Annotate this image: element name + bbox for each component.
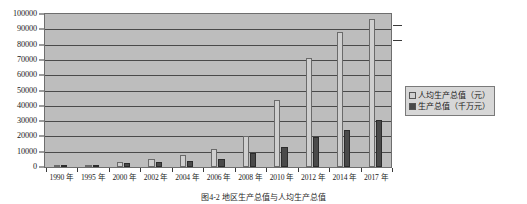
- legend-label-total: 生产总值（千万元）: [418, 102, 490, 111]
- bar-group: [337, 13, 350, 167]
- x-axis-tick-mark: [361, 168, 362, 172]
- axis-stub-upper: [393, 25, 402, 26]
- x-axis-tick-label: 2012 年: [301, 173, 326, 182]
- bar-group: [54, 13, 67, 167]
- y-axis-tick-label: 10000: [17, 148, 37, 156]
- legend-item-total: 生产总值（千万元）: [409, 101, 490, 112]
- x-axis-tick-label: 2014 年: [333, 173, 358, 182]
- bar-group: [306, 13, 319, 167]
- bar-group: [117, 13, 130, 167]
- bar-group: [369, 13, 382, 167]
- x-axis-tick-label: 2002 年: [144, 173, 169, 182]
- x-axis-tick-label: 2010 年: [270, 173, 295, 182]
- bar-per-capita: [243, 136, 249, 167]
- x-axis-tick-mark: [140, 168, 141, 172]
- x-axis-tick-mark: [235, 168, 236, 172]
- bar-total: [344, 130, 350, 167]
- x-axis-tick-label: 2004 年: [175, 173, 200, 182]
- bar-total: [250, 153, 256, 167]
- y-axis: 0100002000030000400005000060000700008000…: [0, 8, 44, 173]
- bar-per-capita: [211, 149, 217, 167]
- chart-legend: 人均生产总值（元） 生产总值（千万元）: [405, 86, 495, 116]
- bar-per-capita: [117, 162, 123, 167]
- bar-total: [376, 120, 382, 167]
- bar-group: [148, 13, 161, 167]
- bar-per-capita: [274, 100, 280, 167]
- bar-total: [124, 163, 130, 167]
- bar-total: [156, 162, 162, 167]
- bar-group: [243, 13, 256, 167]
- x-axis-tick-mark: [392, 168, 393, 172]
- bar-total: [93, 165, 99, 167]
- bar-per-capita: [337, 32, 343, 167]
- y-axis-tick-label: 20000: [17, 132, 37, 140]
- x-axis-tick-mark: [329, 168, 330, 172]
- legend-swatch-light-gray-icon: [409, 92, 416, 99]
- y-axis-tick-label: 100000: [13, 10, 37, 18]
- bar-per-capita: [306, 58, 312, 167]
- x-axis-tick-label: 2000 年: [112, 173, 137, 182]
- bar-per-capita: [54, 165, 60, 167]
- figure-container: 0100002000030000400005000060000700008000…: [0, 0, 527, 204]
- bar-group: [85, 13, 98, 167]
- x-axis-tick-mark: [203, 168, 204, 172]
- x-axis-tick-label: 2008 年: [238, 173, 263, 182]
- bar-group: [274, 13, 287, 167]
- bar-per-capita: [369, 19, 375, 167]
- bar-total: [313, 137, 319, 167]
- x-axis-tick-mark: [266, 168, 267, 172]
- bar-total: [61, 165, 67, 167]
- x-axis-tick-label: 2017 年: [364, 173, 389, 182]
- y-axis-tick-label: 30000: [17, 117, 37, 125]
- legend-label-per-capita: 人均生产总值（元）: [418, 91, 490, 100]
- x-axis-tick-label: 1995 年: [81, 173, 106, 182]
- x-axis-tick-mark: [172, 168, 173, 172]
- y-axis-tick-label: 70000: [17, 56, 37, 64]
- bar-total: [187, 161, 193, 167]
- bar-group: [180, 13, 193, 167]
- bar-total: [218, 159, 224, 167]
- x-axis: 1990 年1995 年2000 年2002 年2004 年2006 年2008…: [0, 168, 420, 188]
- x-axis-tick-mark: [46, 168, 47, 172]
- bar-series-group: [44, 13, 392, 168]
- figure-caption: 图4-2 地区生产总值与人均生产总值: [0, 193, 527, 203]
- y-axis-tick-label: 40000: [17, 102, 37, 110]
- x-axis-tick-label: 1990 年: [49, 173, 74, 182]
- x-axis-tick-label: 2006 年: [207, 173, 232, 182]
- bar-per-capita: [85, 165, 91, 167]
- bar-total: [281, 147, 287, 167]
- x-axis-tick-mark: [77, 168, 78, 172]
- bar-per-capita: [180, 155, 186, 167]
- axis-stub-lower: [393, 40, 402, 41]
- y-axis-tick-label: 80000: [17, 40, 37, 48]
- legend-swatch-dark-gray-icon: [409, 103, 416, 110]
- legend-item-per-capita: 人均生产总值（元）: [409, 90, 490, 101]
- bar-group: [211, 13, 224, 167]
- x-axis-tick-mark: [109, 168, 110, 172]
- y-axis-tick-label: 50000: [17, 86, 37, 94]
- bar-per-capita: [148, 159, 154, 167]
- x-axis-tick-mark: [298, 168, 299, 172]
- y-axis-tick-label: 60000: [17, 71, 37, 79]
- y-axis-tick-label: 90000: [17, 25, 37, 33]
